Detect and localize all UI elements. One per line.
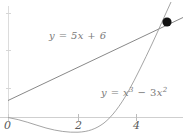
cubic-series-x3-minus-3x2 — [8, 2, 171, 132]
x-tick-label-2: 2 — [75, 119, 82, 132]
cubic-eq-pow2: 2 — [163, 86, 168, 94]
cubic-equation-label: y = x3 − 3x2 — [101, 86, 168, 98]
plot-canvas — [0, 0, 183, 139]
x-tick-label-0: 0 — [4, 119, 11, 132]
cubic-eq-equals: = — [111, 87, 120, 98]
cubic-eq-pow1: 3 — [129, 86, 134, 94]
line-equation-label: y = 5x + 6 — [49, 30, 107, 41]
cubic-eq-minus: − 3 — [138, 87, 157, 98]
graph-figure: 0 2 4 y = 5x + 6 y = x3 − 3x2 — [0, 0, 183, 139]
x-tick-label-4: 4 — [133, 119, 140, 132]
intersection-point-marker — [162, 17, 171, 26]
